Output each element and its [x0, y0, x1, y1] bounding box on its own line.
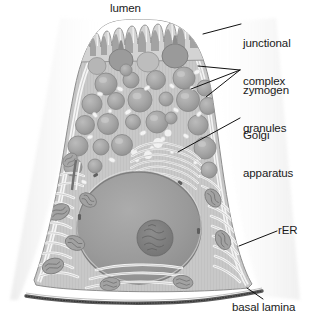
- cell-diagram-figure: lumen junctional complex zymogen granule…: [0, 0, 317, 321]
- label-golgi-apparatus-line1: Golgi: [243, 129, 293, 142]
- label-zymogen-granules-line1: zymogen: [243, 84, 289, 97]
- label-golgi-apparatus-line2: apparatus: [243, 167, 293, 180]
- nucleolus: [137, 220, 173, 256]
- label-basal-lamina: basal lamina: [232, 301, 295, 314]
- label-junctional-complex-line1: junctional: [243, 37, 291, 50]
- label-golgi-apparatus: Golgi apparatus: [243, 104, 293, 204]
- label-lumen: lumen: [110, 2, 141, 15]
- label-rer: rER: [278, 224, 298, 237]
